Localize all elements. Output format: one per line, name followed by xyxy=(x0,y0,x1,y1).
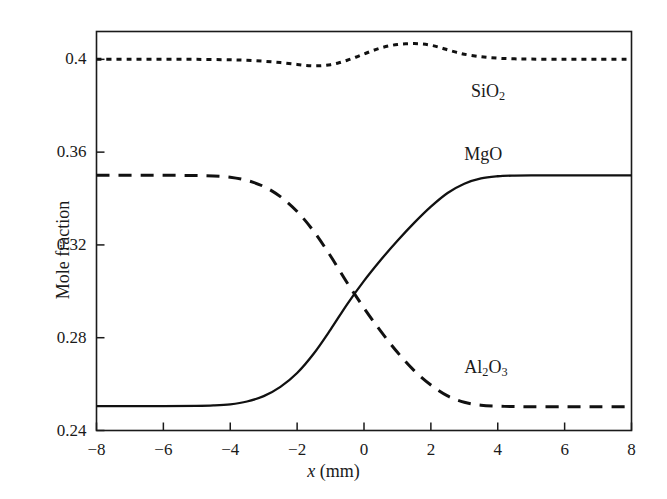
x-tick-label: 6 xyxy=(545,441,585,458)
y-tick-label: 0.4 xyxy=(31,50,87,67)
x-tick-label: 2 xyxy=(411,441,451,458)
series-label-sio2: SiO2 xyxy=(471,82,505,103)
series-line-mgo xyxy=(97,175,632,406)
x-axis-title-units: (mm) xyxy=(315,461,360,481)
axes-frame xyxy=(97,32,632,431)
x-tick-label: −8 xyxy=(77,441,117,458)
series-label-al2o3: Al2O3 xyxy=(464,358,507,379)
x-tick-label: −2 xyxy=(277,441,317,458)
x-tick-label: 0 xyxy=(344,441,384,458)
y-tick-label: 0.28 xyxy=(31,329,87,346)
series-line-al2o3 xyxy=(97,175,632,407)
axis-ticks xyxy=(97,59,632,430)
y-tick-label: 0.36 xyxy=(31,143,87,160)
x-tick-label: −6 xyxy=(143,441,183,458)
figure-container: 0.240.280.320.360.4 −8−6−4−202468 SiO2Mg… xyxy=(0,0,667,499)
data-series-group xyxy=(97,44,632,407)
x-tick-label: 8 xyxy=(612,441,652,458)
series-line-sio2 xyxy=(97,44,632,66)
x-tick-label: −4 xyxy=(210,441,250,458)
y-axis-title: Mole fraction xyxy=(54,200,72,298)
chart-canvas xyxy=(0,0,667,499)
y-tick-label: 0.24 xyxy=(31,422,87,439)
x-tick-label: 4 xyxy=(478,441,518,458)
x-axis-title: x (mm) xyxy=(0,462,667,480)
series-label-mgo: MgO xyxy=(464,145,502,163)
